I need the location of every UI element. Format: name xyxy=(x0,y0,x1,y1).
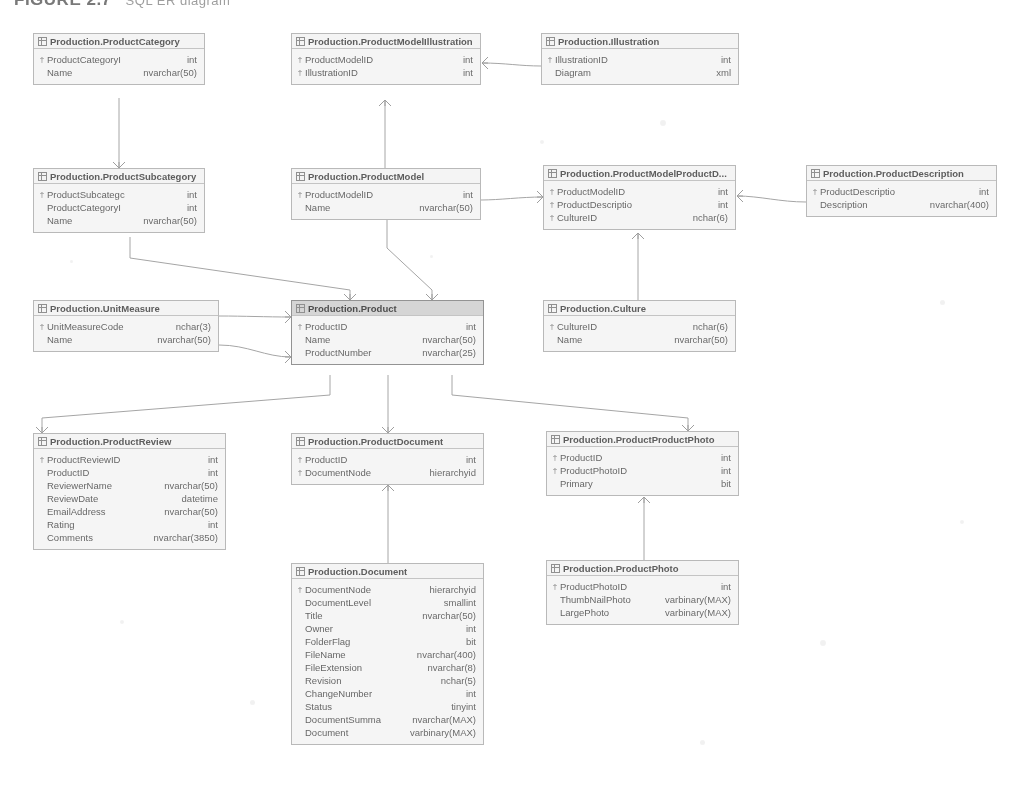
table-header-document[interactable]: Production.Document xyxy=(292,564,483,579)
column-row[interactable]: †DocumentNodehierarchyid xyxy=(292,583,483,596)
figure-title: FIGURE 2.7SQL ER diagram xyxy=(14,0,230,10)
figure-subtitle: SQL ER diagram xyxy=(126,0,231,8)
column-row[interactable]: †UnitMeasureCodenchar(3) xyxy=(34,320,218,333)
column-name: ProductPhotoID xyxy=(559,580,715,593)
grid-icon xyxy=(38,437,47,446)
table-header-product-model-illustration[interactable]: Production.ProductModelIllustration xyxy=(292,34,480,49)
table-product-product-photo[interactable]: Production.ProductProductPhoto†ProductID… xyxy=(546,431,739,496)
grid-icon xyxy=(296,37,305,46)
column-name: UnitMeasureCode xyxy=(46,320,170,333)
table-header-unit-measure[interactable]: Production.UnitMeasure xyxy=(34,301,218,316)
table-product-model[interactable]: Production.ProductModel†ProductModelIDin… xyxy=(291,168,481,220)
column-row[interactable]: †ProductPhotoIDint xyxy=(547,580,738,593)
column-row[interactable]: †ProductModelIDint xyxy=(292,53,480,66)
column-row[interactable]: †CultureIDnchar(6) xyxy=(544,211,735,224)
column-row[interactable]: Titlenvarchar(50) xyxy=(292,609,483,622)
table-header-culture[interactable]: Production.Culture xyxy=(544,301,735,316)
table-columns-product: †ProductIDintNamenvarchar(50)ProductNumb… xyxy=(292,316,483,364)
column-row[interactable]: Namenvarchar(50) xyxy=(34,66,204,79)
column-type: nvarchar(50) xyxy=(137,214,197,227)
column-row[interactable]: ReviewerNamenvarchar(50) xyxy=(34,479,225,492)
column-row[interactable]: Ownerint xyxy=(292,622,483,635)
column-name: IllustrationID xyxy=(554,53,715,66)
table-header-product-product-photo[interactable]: Production.ProductProductPhoto xyxy=(547,432,738,447)
column-row[interactable]: ProductNumbernvarchar(25) xyxy=(292,346,483,359)
column-row[interactable]: †DocumentNodehierarchyid xyxy=(292,466,483,479)
column-name: DocumentNode xyxy=(304,466,424,479)
column-row[interactable]: Ratingint xyxy=(34,518,225,531)
column-name: Name xyxy=(46,66,137,79)
table-header-product-document[interactable]: Production.ProductDocument xyxy=(292,434,483,449)
column-row[interactable]: LargePhotovarbinary(MAX) xyxy=(547,606,738,619)
column-row[interactable]: Commentsnvarchar(3850) xyxy=(34,531,225,544)
column-row[interactable]: EmailAddressnvarchar(50) xyxy=(34,505,225,518)
column-row[interactable]: †ProductIDint xyxy=(292,453,483,466)
table-product-review[interactable]: Production.ProductReview†ProductReviewID… xyxy=(33,433,226,550)
column-row[interactable]: DocumentLevelsmallint xyxy=(292,596,483,609)
column-name: ProductSubcategc xyxy=(46,188,181,201)
table-header-product-review[interactable]: Production.ProductReview xyxy=(34,434,225,449)
column-row[interactable]: Namenvarchar(50) xyxy=(34,214,204,227)
column-row[interactable]: Revisionnchar(5) xyxy=(292,674,483,687)
column-row[interactable]: ChangeNumberint xyxy=(292,687,483,700)
table-header-illustration[interactable]: Production.Illustration xyxy=(542,34,738,49)
column-row[interactable]: ProductCategoryIint xyxy=(34,201,204,214)
column-row[interactable]: †IllustrationIDint xyxy=(292,66,480,79)
table-header-product-model[interactable]: Production.ProductModel xyxy=(292,169,480,184)
column-row[interactable]: †ProductSubcategcint xyxy=(34,188,204,201)
table-header-product-model-product-description[interactable]: Production.ProductModelProductD... xyxy=(544,166,735,181)
table-product-model-product-description[interactable]: Production.ProductModelProductD...†Produ… xyxy=(543,165,736,230)
column-row[interactable]: FileExtensionnvarchar(8) xyxy=(292,661,483,674)
column-row[interactable]: ReviewDatedatetime xyxy=(34,492,225,505)
column-row[interactable]: †ProductDescriptioint xyxy=(807,185,996,198)
table-illustration[interactable]: Production.Illustration†IllustrationIDin… xyxy=(541,33,739,85)
column-row[interactable]: Namenvarchar(50) xyxy=(292,333,483,346)
table-header-product-photo[interactable]: Production.ProductPhoto xyxy=(547,561,738,576)
column-row[interactable]: Namenvarchar(50) xyxy=(544,333,735,346)
table-header-product-category[interactable]: Production.ProductCategory xyxy=(34,34,204,49)
table-product-description[interactable]: Production.ProductDescription†ProductDes… xyxy=(806,165,997,217)
column-name: ProductID xyxy=(559,451,715,464)
column-row[interactable]: †ProductPhotoIDint xyxy=(547,464,738,477)
column-row[interactable]: †ProductModelIDint xyxy=(544,185,735,198)
column-row[interactable]: Statustinyint xyxy=(292,700,483,713)
table-product-subcategory[interactable]: Production.ProductSubcategory†ProductSub… xyxy=(33,168,205,233)
column-row[interactable]: †ProductReviewIDint xyxy=(34,453,225,466)
primary-key-icon: † xyxy=(296,188,304,201)
table-document[interactable]: Production.Document†DocumentNodehierarch… xyxy=(291,563,484,745)
column-row[interactable]: †IllustrationIDint xyxy=(542,53,738,66)
primary-key-icon: † xyxy=(296,453,304,466)
table-product-document[interactable]: Production.ProductDocument†ProductIDint†… xyxy=(291,433,484,485)
column-row[interactable]: DocumentSummanvarchar(MAX) xyxy=(292,713,483,726)
column-name: Name xyxy=(556,333,668,346)
table-header-product[interactable]: Production.Product xyxy=(292,301,483,316)
column-row[interactable]: †ProductDescriptioint xyxy=(544,198,735,211)
column-row[interactable]: †ProductIDint xyxy=(547,451,738,464)
column-row[interactable]: †ProductModelIDint xyxy=(292,188,480,201)
primary-key-icon: † xyxy=(546,53,554,66)
column-row[interactable]: †ProductCategoryIint xyxy=(34,53,204,66)
column-row[interactable]: ProductIDint xyxy=(34,466,225,479)
column-row[interactable]: FileNamenvarchar(400) xyxy=(292,648,483,661)
table-header-product-subcategory[interactable]: Production.ProductSubcategory xyxy=(34,169,204,184)
table-header-product-description[interactable]: Production.ProductDescription xyxy=(807,166,996,181)
column-row[interactable]: Namenvarchar(50) xyxy=(34,333,218,346)
table-unit-measure[interactable]: Production.UnitMeasure†UnitMeasureCodenc… xyxy=(33,300,219,352)
table-culture[interactable]: Production.Culture†CultureIDnchar(6)Name… xyxy=(543,300,736,352)
table-product-category[interactable]: Production.ProductCategory†ProductCatego… xyxy=(33,33,205,85)
column-row[interactable]: Descriptionnvarchar(400) xyxy=(807,198,996,211)
column-type: int xyxy=(460,320,476,333)
column-row[interactable]: FolderFlagbit xyxy=(292,635,483,648)
table-product-model-illustration[interactable]: Production.ProductModelIllustration†Prod… xyxy=(291,33,481,85)
column-row[interactable]: Namenvarchar(50) xyxy=(292,201,480,214)
table-columns-illustration: †IllustrationIDintDiagramxml xyxy=(542,49,738,84)
column-type: bit xyxy=(715,477,731,490)
table-product-photo[interactable]: Production.ProductPhoto†ProductPhotoIDin… xyxy=(546,560,739,625)
column-row[interactable]: †CultureIDnchar(6) xyxy=(544,320,735,333)
column-row[interactable]: Diagramxml xyxy=(542,66,738,79)
column-row[interactable]: ThumbNailPhotovarbinary(MAX) xyxy=(547,593,738,606)
column-row[interactable]: Primarybit xyxy=(547,477,738,490)
column-row[interactable]: †ProductIDint xyxy=(292,320,483,333)
column-row[interactable]: Documentvarbinary(MAX) xyxy=(292,726,483,739)
table-product[interactable]: Production.Product†ProductIDintNamenvarc… xyxy=(291,300,484,365)
